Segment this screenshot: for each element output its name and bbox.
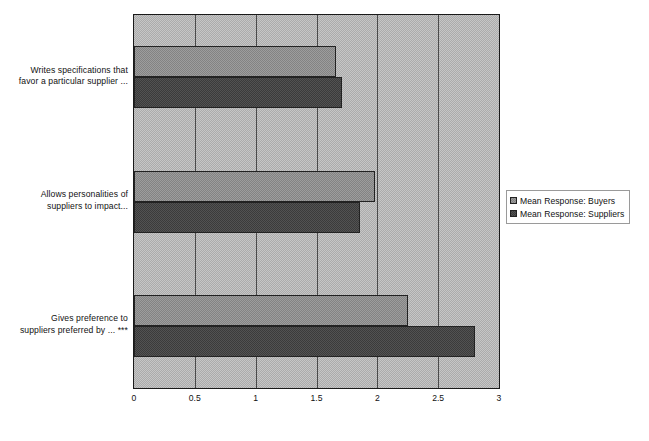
- x-tick-label-0: 0: [114, 393, 154, 403]
- category-axis-labels: Writes specifications thatfavor a partic…: [0, 14, 130, 389]
- x-axis-title: [133, 428, 500, 441]
- bar-buyers-0: [134, 46, 336, 77]
- bar-buyers-2: [134, 295, 408, 326]
- legend-swatch-buyers-icon: [510, 197, 517, 204]
- chart-legend: Mean Response: Buyers Mean Response: Sup…: [506, 190, 630, 224]
- legend-label-buyers: Mean Response: Buyers: [520, 196, 615, 206]
- x-tick-label-3: 3: [479, 393, 519, 403]
- category-label-1: Allows personalities ofsuppliers to impa…: [0, 189, 128, 212]
- category-label-0: Writes specifications thatfavor a partic…: [0, 65, 128, 88]
- bar-buyers-1: [134, 171, 375, 202]
- legend-swatch-suppliers-icon: [510, 210, 517, 217]
- bar-suppliers-2: [134, 326, 475, 357]
- bar-chart: Writes specifications thatfavor a partic…: [0, 0, 649, 441]
- legend-item-suppliers: Mean Response: Suppliers: [510, 207, 624, 220]
- x-tick-label-2.5: 2.5: [418, 393, 458, 403]
- x-tick-label-2: 2: [357, 393, 397, 403]
- bar-suppliers-1: [134, 202, 360, 233]
- x-tick-label-1: 1: [236, 393, 276, 403]
- x-tick-label-1.5: 1.5: [297, 393, 337, 403]
- bar-suppliers-0: [134, 77, 342, 108]
- category-label-2: Gives preference tosuppliers preferred b…: [0, 313, 128, 336]
- x-tick-label-0.5: 0.5: [175, 393, 215, 403]
- legend-item-buyers: Mean Response: Buyers: [510, 194, 624, 207]
- plot-area: [133, 14, 500, 389]
- legend-label-suppliers: Mean Response: Suppliers: [520, 209, 624, 219]
